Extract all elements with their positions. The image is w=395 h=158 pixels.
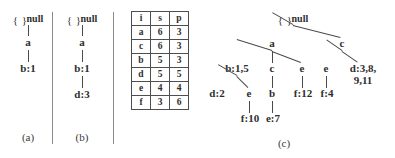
- table-row: a 6 3: [132, 26, 189, 40]
- panel-c-edge-root-c: [293, 25, 340, 38]
- fp-tree-figure: { }null a b:1 (a) { }null a b:1 d:3 (b) …: [0, 0, 395, 158]
- table-cell-support: 5: [151, 54, 170, 68]
- table-col-header-i: i: [132, 12, 151, 26]
- table-row: e 4 4: [132, 82, 189, 96]
- header-item-table: i s p a 6 3 c 6 3 b 5 3 d 5: [131, 11, 189, 110]
- panel-c-node-b15: b:1,5: [225, 63, 249, 74]
- table-cell-item: e: [132, 82, 151, 96]
- panel-a-root-braces: { }: [13, 14, 28, 26]
- table-cell-pointer: 3: [170, 26, 189, 40]
- panel-a-edge-a-b: [28, 50, 29, 62]
- table-cell-support: 4: [151, 82, 170, 96]
- table-cell-support: 6: [151, 26, 170, 40]
- table-row: c 6 3: [132, 40, 189, 54]
- panel-c-node-e2: e: [300, 63, 305, 74]
- panel-a-node-a: a: [25, 37, 31, 48]
- panel-c-node-e3: e: [324, 63, 329, 74]
- panel-c-node-c2: c: [270, 63, 275, 74]
- panel-c-node-f12: f:12: [294, 88, 312, 99]
- panel-c-node-a: a: [269, 38, 275, 49]
- panel-c-node-d3-8-9-11: d:3,8,9,11: [350, 63, 376, 86]
- panel-c-node-d2: d:2: [209, 88, 224, 99]
- panel-a-node-b1: b:1: [20, 63, 35, 74]
- table-cell-item: d: [132, 68, 151, 82]
- panel-c-edge-b15-e: [236, 76, 248, 88]
- table-cell-item: c: [132, 40, 151, 54]
- table-row: b 5 3: [132, 54, 189, 68]
- table-row: d 5 5: [132, 68, 189, 82]
- table-cell-pointer: 3: [170, 40, 189, 54]
- panel-c-node-b: b: [269, 88, 275, 99]
- panel-divider-1: [52, 12, 53, 144]
- table-cell-pointer: 3: [170, 54, 189, 68]
- panel-c-node-f4: f:4: [321, 88, 334, 99]
- table-header-row: i s p: [132, 12, 189, 26]
- panel-b-caption: (b): [76, 131, 89, 143]
- panel-b-edge-a-b: [82, 50, 83, 62]
- panel-c-node-e7: e:7: [266, 113, 280, 124]
- panel-c-node-e4: e: [247, 88, 252, 99]
- panel-c-node-d-line1: d:3,8,: [350, 62, 376, 74]
- panel-a-caption: (a): [22, 131, 34, 143]
- panel-c-node-c: c: [340, 38, 345, 49]
- panel-a-edge-root-a: [28, 25, 29, 36]
- table-col-header-p: p: [170, 12, 189, 26]
- table-cell-item: a: [132, 26, 151, 40]
- panel-b-root-braces: { }: [67, 14, 82, 26]
- panel-c-edge-a-e: [272, 51, 301, 63]
- table-cell-pointer: 6: [170, 96, 189, 110]
- table-cell-support: 3: [151, 96, 170, 110]
- panel-b-node-a: a: [79, 37, 85, 48]
- panel-a-root-null-label: null: [27, 13, 44, 24]
- panel-c-root-null-label: null: [292, 13, 309, 24]
- panel-b-edge-root-a: [82, 25, 83, 36]
- panel-divider-2: [113, 12, 114, 144]
- table-cell-pointer: 4: [170, 82, 189, 96]
- panel-c-node-f10: f:10: [241, 113, 259, 124]
- table-cell-support: 5: [151, 68, 170, 82]
- panel-c-edge-a-b15: [237, 39, 272, 51]
- panel-c-node-d-line2: 9,11: [354, 74, 373, 86]
- table-row: f 3 6: [132, 96, 189, 110]
- table-cell-item: f: [132, 96, 151, 110]
- panel-c-caption: (c): [278, 137, 290, 149]
- table-cell-pointer: 5: [170, 68, 189, 82]
- table-cell-item: b: [132, 54, 151, 68]
- table-cell-support: 6: [151, 40, 170, 54]
- panel-b-edge-b-d: [82, 76, 83, 88]
- panel-b-node-b1: b:1: [74, 63, 89, 74]
- table-col-header-s: s: [151, 12, 170, 26]
- panel-b-root-null-label: null: [81, 13, 98, 24]
- panel-b-node-d3: d:3: [74, 89, 89, 100]
